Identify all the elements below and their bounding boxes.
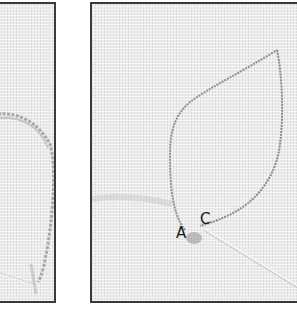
point-label-c: C: [200, 212, 210, 227]
point-label-a: A: [176, 226, 186, 241]
left-panel-image: [0, 2, 56, 303]
leaf-outline-drawing: [92, 4, 297, 303]
stitched-loop-drawing: [0, 4, 56, 303]
right-panel-image: A C: [90, 2, 297, 303]
